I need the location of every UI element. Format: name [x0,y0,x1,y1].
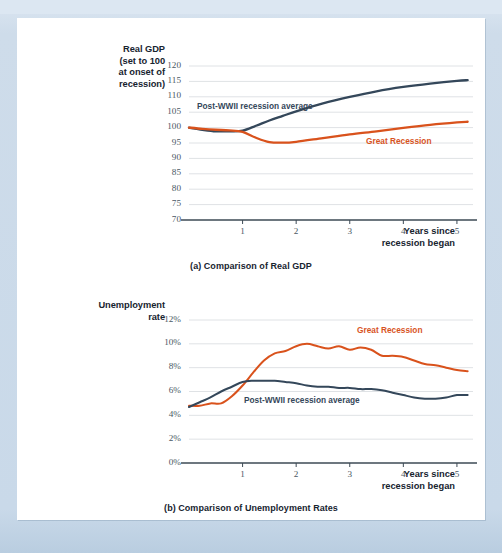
y-tick-label: 2% [143,433,181,443]
y-tick-label: 100 [143,121,181,131]
x-tick-label: 2 [286,226,306,236]
x-tick-label: 2 [286,469,306,479]
gdp-label-great-recession: Great Recession [366,136,431,146]
gdp-x-axis-title-line-1: Years since [335,226,455,238]
gdp-axis-lines [181,220,477,224]
y-tick-label: 0% [143,457,181,467]
y-tick-label: 6% [143,385,181,395]
unemployment-gridlines [189,320,473,439]
gdp-x-axis-title: Years since recession began [335,226,455,249]
unemployment-x-axis-title-line-1: Years since [335,469,455,481]
unemployment-x-axis-title: Years since recession began [335,469,455,492]
unemployment-label-postwwii: Post-WWII recession average [244,395,360,405]
y-tick-label: 70 [143,214,181,224]
y-tick-label: 10% [143,337,181,347]
gdp-x-axis-title-line-2: recession began [335,238,455,250]
gdp-label-postwwii: Post-WWII recession average [197,101,313,111]
unemployment-label-great-recession: Great Recession [357,325,422,335]
gdp-caption: (a) Comparison of Real GDP [17,261,485,271]
y-tick-label: 95 [143,137,181,147]
y-tick-label: 75 [143,198,181,208]
y-tick-label: 8% [143,361,181,371]
y-tick-label: 110 [143,90,181,100]
y-tick-label: 85 [143,167,181,177]
chart-real-gdp: Real GDP (set to 100 at onset of recessi… [17,18,485,273]
gdp-series-lines [189,80,468,143]
unemployment-axis-lines [181,463,477,467]
x-tick-label: 1 [233,469,253,479]
unemployment-x-axis-title-line-2: recession began [335,481,455,493]
y-tick-label: 120 [143,60,181,70]
y-tick-label: 4% [143,409,181,419]
figure-card: Real GDP (set to 100 at onset of recessi… [17,18,485,520]
y-tick-label: 12% [143,314,181,324]
y-tick-label: 105 [143,106,181,116]
y-tick-label: 90 [143,152,181,162]
page-top-strip [0,0,502,14]
x-tick-label: 1 [233,226,253,236]
y-tick-label: 80 [143,183,181,193]
chart-unemployment: Unemployment rate 0%2%4%6%8%10%12% 12345… [17,273,485,520]
unemployment-caption: (b) Comparison of Unemployment Rates [17,503,485,513]
y-tick-label: 115 [143,75,181,85]
